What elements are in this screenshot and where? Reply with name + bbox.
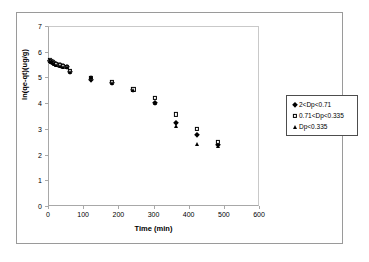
data-point — [48, 58, 52, 62]
data-point — [47, 58, 53, 64]
legend-item-label: Dp<0.335 — [299, 122, 327, 131]
data-point — [174, 112, 178, 116]
data-point — [52, 61, 58, 67]
x-axis-tick — [154, 206, 155, 209]
data-point — [49, 60, 53, 64]
y-axis-tick — [45, 77, 48, 78]
data-point — [55, 62, 61, 68]
x-axis-tick-label: 200 — [112, 211, 124, 218]
data-point — [109, 80, 115, 86]
legend-item: 0.71<Dp<0.335 — [290, 110, 354, 121]
figure-container: Time (min) ln(qe-qt)(ug/g) 2<Dp<0.710.71… — [0, 0, 369, 262]
data-point — [131, 88, 135, 92]
data-point — [110, 80, 114, 84]
x-axis-title: Time (min) — [48, 224, 259, 233]
y-axis-tick-label: 3 — [26, 125, 42, 132]
data-point — [174, 124, 178, 128]
y-axis-tick-label: 1 — [26, 177, 42, 184]
data-point — [50, 60, 56, 66]
x-axis-tick-label: 300 — [148, 211, 160, 218]
chart-legend: 2<Dp<0.710.71<Dp<0.335Dp<0.335 — [286, 95, 358, 136]
legend-item: 2<Dp<0.71 — [290, 99, 354, 110]
data-point — [89, 76, 93, 80]
data-point — [88, 77, 94, 83]
y-axis-tick-label: 0 — [26, 203, 42, 210]
legend-item-label: 2<Dp<0.71 — [299, 100, 331, 109]
y-axis-tick — [45, 52, 48, 53]
y-axis-tick — [45, 180, 48, 181]
data-point — [57, 63, 61, 67]
data-point — [61, 64, 65, 68]
data-point — [152, 100, 158, 106]
data-point — [153, 101, 157, 105]
data-point — [89, 75, 93, 79]
y-axis-tick — [45, 206, 48, 207]
y-axis-tick-label: 5 — [26, 74, 42, 81]
y-axis-tick — [45, 129, 48, 130]
open-square-icon — [290, 111, 299, 120]
data-point — [68, 70, 72, 74]
data-point — [64, 65, 68, 69]
data-point — [48, 59, 52, 63]
data-point — [216, 140, 220, 144]
data-point — [54, 62, 58, 66]
data-point — [194, 132, 200, 138]
x-axis-tick — [48, 206, 49, 209]
plot-area — [48, 26, 259, 206]
x-axis-tick — [118, 206, 119, 209]
data-point — [65, 65, 69, 69]
y-axis-tick — [45, 155, 48, 156]
data-point — [47, 58, 53, 64]
x-axis-tick — [224, 206, 225, 209]
x-axis-tick — [189, 206, 190, 209]
data-point — [68, 69, 72, 73]
x-axis-tick-label: 100 — [77, 211, 89, 218]
data-point — [57, 62, 63, 68]
x-axis-tick — [83, 206, 84, 209]
data-point — [216, 144, 220, 148]
data-point — [61, 65, 65, 69]
data-point — [130, 87, 136, 93]
data-point — [51, 61, 55, 65]
data-point — [58, 63, 64, 69]
data-point — [131, 87, 135, 91]
y-axis-tick-label: 7 — [26, 23, 42, 30]
data-point — [195, 142, 199, 146]
legend-item-label: 0.71<Dp<0.335 — [299, 111, 344, 120]
data-point — [60, 63, 66, 69]
data-point — [49, 59, 53, 63]
data-point — [215, 142, 221, 148]
y-axis-tick-label: 2 — [26, 151, 42, 158]
legend-item: Dp<0.335 — [290, 121, 354, 132]
data-point — [64, 64, 70, 70]
data-point — [152, 96, 156, 100]
data-point — [173, 120, 179, 126]
data-point — [58, 64, 62, 68]
data-point — [67, 69, 73, 75]
data-point — [49, 59, 55, 65]
x-axis-tick-label: 600 — [253, 211, 265, 218]
data-point — [51, 60, 57, 66]
y-axis-tick — [45, 103, 48, 104]
y-axis-tick — [45, 26, 48, 27]
data-point — [195, 126, 199, 130]
data-point — [110, 81, 114, 85]
data-point — [52, 62, 56, 66]
data-point — [48, 59, 54, 65]
y-axis-tick-label: 4 — [26, 100, 42, 107]
y-axis-tick-label: 6 — [26, 48, 42, 55]
x-axis-tick-label: 0 — [46, 211, 50, 218]
x-axis-tick — [259, 206, 260, 209]
data-point — [54, 63, 58, 67]
x-axis-tick-label: 500 — [218, 211, 230, 218]
filled-diamond-icon — [290, 100, 299, 109]
x-axis-tick-label: 400 — [183, 211, 195, 218]
data-point — [52, 61, 56, 65]
filled-triangle-icon — [290, 122, 299, 131]
data-point — [50, 60, 54, 64]
data-point — [53, 61, 59, 67]
